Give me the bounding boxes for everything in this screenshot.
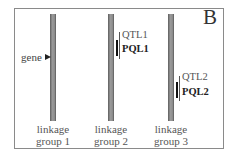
pql2-interval-bar: [176, 82, 178, 98]
pql2-label: PQL2: [182, 87, 209, 98]
qtl1-interval-bar: [119, 32, 120, 59]
pql1-interval-bar: [116, 40, 118, 56]
group-label-2: linkage group 2: [86, 123, 136, 147]
group-label-2-line2: group 2: [86, 135, 136, 147]
gene-arrow-icon: [45, 54, 51, 60]
group-label-3-line2: group 3: [146, 135, 196, 147]
group-label-1-line1: linkage: [28, 123, 78, 135]
chromosome-bar-2: [108, 14, 114, 121]
chromosome-bar-1: [50, 14, 56, 121]
qtl2-label: QTL2: [182, 72, 208, 83]
group-label-3-line1: linkage: [146, 123, 196, 135]
group-label-2-line1: linkage: [86, 123, 136, 135]
qtl2-interval-bar: [179, 76, 180, 101]
gene-label: gene: [21, 51, 42, 63]
group-label-3: linkage group 3: [146, 123, 196, 147]
panel-letter: B: [203, 7, 217, 28]
chromosome-bar-3: [168, 14, 174, 121]
group-label-1-line2: group 1: [28, 135, 78, 147]
pql1-label: PQL1: [122, 44, 149, 55]
group-label-1: linkage group 1: [28, 123, 78, 147]
qtl1-label: QTL1: [122, 30, 148, 41]
